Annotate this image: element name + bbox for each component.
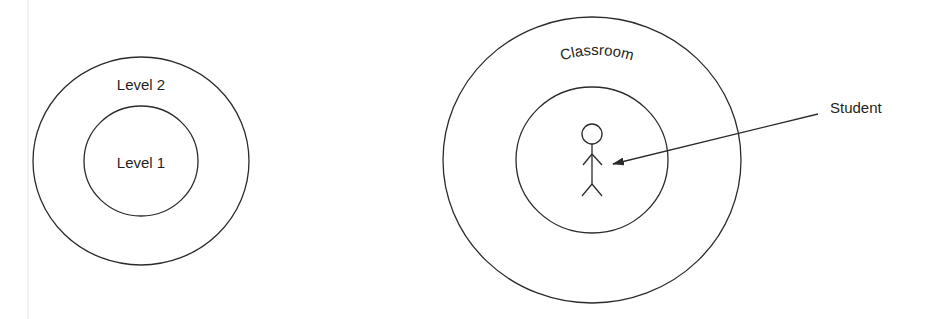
classroom-label: Classroom xyxy=(558,41,636,64)
level-1-label: Level 1 xyxy=(117,154,165,171)
stick-figure-right-arm xyxy=(592,154,602,165)
stick-figure-left-leg xyxy=(582,184,592,196)
stick-figure-head xyxy=(582,124,602,144)
diagram-svg: Level 2 Level 1 Classroom Student xyxy=(0,0,946,319)
classroom-diagram: Classroom Student xyxy=(443,17,883,303)
stick-figure-left-arm xyxy=(583,154,592,165)
diagram-canvas: Level 2 Level 1 Classroom Student xyxy=(0,0,946,319)
classroom-label-path: Classroom xyxy=(558,41,636,64)
arrow-icon xyxy=(613,114,818,164)
stick-figure-right-leg xyxy=(592,184,602,196)
stick-figure-icon xyxy=(582,124,602,196)
student-label: Student xyxy=(830,99,883,116)
level-2-label: Level 2 xyxy=(117,76,165,93)
levels-diagram: Level 2 Level 1 xyxy=(33,57,249,265)
